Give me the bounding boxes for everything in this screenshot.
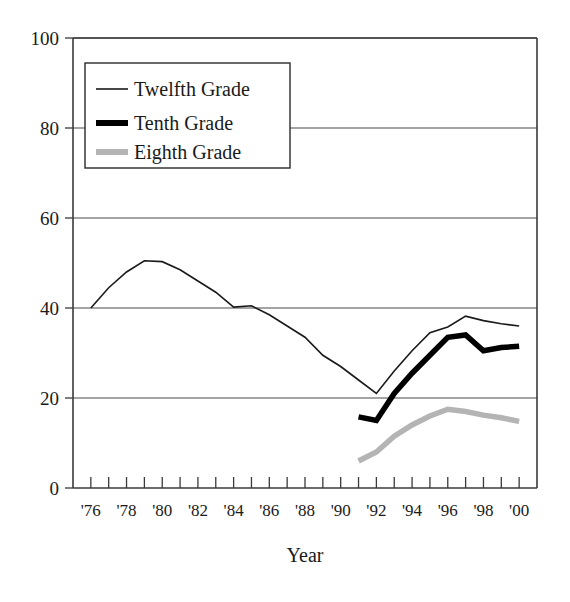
line-chart: 020406080100 '76'78'80'82'84'86'88'90'92… — [0, 0, 570, 602]
x-tick-label-1984: '84 — [224, 501, 245, 520]
legend: Twelfth Grade Tenth Grade Eighth Grade — [85, 63, 290, 168]
x-tick-label-1990: '90 — [331, 501, 351, 520]
x-tick-label-2000: '00 — [509, 501, 529, 520]
x-axis-title: Year — [287, 544, 324, 566]
x-tick-label-1988: '88 — [295, 501, 315, 520]
x-tick-label-1980: '80 — [152, 501, 172, 520]
x-tick-label-1996: '96 — [438, 501, 458, 520]
x-tick-label-1992: '92 — [366, 501, 386, 520]
x-tick-label-1976: '76 — [81, 501, 101, 520]
x-tick-label-1994: '94 — [402, 501, 423, 520]
y-tick-label-60: 60 — [40, 208, 59, 229]
x-tick-label-1978: '78 — [116, 501, 136, 520]
y-tick-label-40: 40 — [40, 298, 59, 319]
x-tick-label-1982: '82 — [188, 501, 208, 520]
y-tick-label-0: 0 — [50, 478, 60, 499]
legend-label-eighth-grade: Eighth Grade — [134, 141, 241, 164]
x-tick-label-1986: '86 — [259, 501, 279, 520]
y-tick-label-80: 80 — [40, 118, 59, 139]
y-tick-label-100: 100 — [31, 28, 60, 49]
legend-label-tenth-grade: Tenth Grade — [134, 112, 233, 134]
y-tick-label-20: 20 — [40, 388, 59, 409]
legend-label-twelfth-grade: Twelfth Grade — [134, 78, 250, 100]
x-tick-label-1998: '98 — [473, 501, 493, 520]
chart-container: 020406080100 '76'78'80'82'84'86'88'90'92… — [0, 0, 570, 602]
